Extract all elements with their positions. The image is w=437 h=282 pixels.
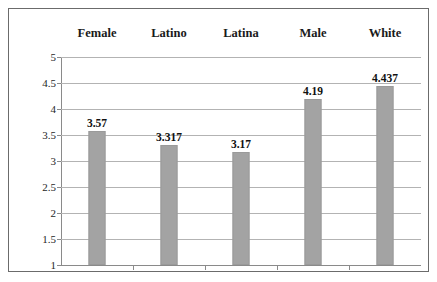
x-axis-tick-1 xyxy=(133,265,134,270)
gridline-1 xyxy=(61,265,421,266)
bar-latino xyxy=(161,145,178,265)
bar-group-latino: 3.317 xyxy=(133,57,205,265)
bar-group-male: 4.19 xyxy=(277,57,349,265)
category-label-male: Male xyxy=(277,22,349,44)
category-header-row: FemaleLatinoLatinaMaleWhite xyxy=(61,22,421,44)
bar-value-label-white: 4.437 xyxy=(372,72,398,84)
category-label-latino: Latino xyxy=(133,22,205,44)
x-axis-tick-3 xyxy=(277,265,278,270)
category-label-latina: Latina xyxy=(205,22,277,44)
bar-value-label-male: 4.19 xyxy=(303,85,323,97)
plot-area: 3.573.3173.174.194.437 xyxy=(61,57,421,265)
bar-group-female: 3.57 xyxy=(61,57,133,265)
bar-group-latina: 3.17 xyxy=(205,57,277,265)
chart-frame: FemaleLatinoLatinaMaleWhite 54.543.532.5… xyxy=(8,8,429,272)
category-label-white: White xyxy=(349,22,421,44)
y-axis-tick-marks xyxy=(9,57,62,266)
x-axis-tick-2 xyxy=(205,265,206,270)
bar-white xyxy=(377,86,394,265)
bar-value-label-latino: 3.317 xyxy=(156,131,182,143)
bar-male xyxy=(305,99,322,265)
x-axis-tick-4 xyxy=(349,265,350,270)
bar-female xyxy=(89,131,106,265)
bar-latina xyxy=(233,152,250,265)
bar-value-label-female: 3.57 xyxy=(87,117,107,129)
bar-group-white: 4.437 xyxy=(349,57,421,265)
category-label-female: Female xyxy=(61,22,133,44)
bar-value-label-latina: 3.17 xyxy=(231,138,251,150)
